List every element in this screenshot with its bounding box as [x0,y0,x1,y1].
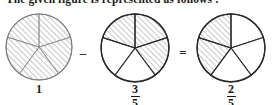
fraction-equation-figure: 1 – 3 5 [0,0,275,105]
fraction-three-fifths: 3 5 [131,83,140,105]
minus-operator: – [76,45,90,61]
pie-label-whole: 1 [5,83,73,95]
fraction-two-fifths: 2 5 [227,83,236,105]
pie-chart-two-fifths: 2 5 [196,13,266,83]
equals-operator: = [176,45,190,61]
pie-svg-two-fifths [196,13,266,83]
fraction-denominator: 5 [227,97,236,105]
pie-label-value: 1 [36,82,42,96]
pie-svg-whole [5,13,73,81]
pie-label-three-fifths: 3 5 [100,83,170,105]
pie-label-two-fifths: 2 5 [196,83,266,105]
fraction-denominator: 5 [131,97,140,105]
pie-chart-whole: 1 [5,13,73,81]
fraction-numerator: 2 [227,83,236,96]
pie-svg-three-fifths [100,13,170,83]
fraction-numerator: 3 [131,83,140,96]
pie-chart-three-fifths: 3 5 [100,13,170,83]
